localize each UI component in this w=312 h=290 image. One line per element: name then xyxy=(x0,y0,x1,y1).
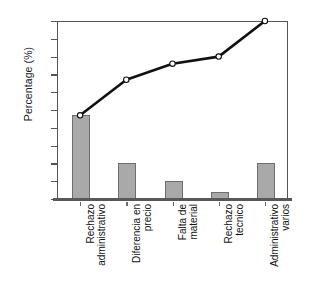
x-label-4: Administrativovarios xyxy=(270,204,291,290)
x-label-line: Rechazo xyxy=(86,204,97,290)
x-label-line: Diferencia en xyxy=(132,204,143,290)
x-label-line: Falta de xyxy=(178,204,189,290)
x-label-1: Diferencia enprecio xyxy=(132,204,153,290)
x-tickmark-4 xyxy=(265,202,266,206)
bar-1 xyxy=(118,163,136,199)
x-label-line: material xyxy=(189,204,200,290)
bar-2 xyxy=(165,181,183,199)
x-tickmark-0 xyxy=(80,202,81,206)
pareto-chart: Percentage (%) 1009080706050403020100 Re… xyxy=(0,0,312,290)
x-label-line: varios xyxy=(281,204,292,290)
x-label-line: administrativo xyxy=(96,204,107,290)
x-label-3: Rechazotecnico xyxy=(224,204,245,290)
x-label-0: Rechazoadministrativo xyxy=(86,204,107,290)
bar-4 xyxy=(257,163,275,199)
x-tickmark-2 xyxy=(173,202,174,206)
x-tickmark-3 xyxy=(219,202,220,206)
x-label-line: tecnico xyxy=(235,204,246,290)
x-label-2: Falta dematerial xyxy=(178,204,199,290)
plot-area xyxy=(57,21,288,199)
y-axis-label: Percentage (%) xyxy=(22,24,34,144)
bar-0 xyxy=(72,115,90,199)
x-tickmark-1 xyxy=(126,202,127,206)
x-label-line: precio xyxy=(142,204,153,290)
